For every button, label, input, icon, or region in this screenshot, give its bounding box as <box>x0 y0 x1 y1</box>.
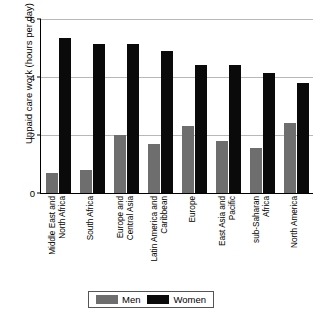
y-tick-label: 0 <box>11 188 41 199</box>
x-label-cell: Europe andCentral Asia <box>108 196 142 282</box>
x-axis-tick-label-line: Europe and <box>116 196 126 240</box>
bar-women <box>195 65 207 193</box>
legend-item-men: Men <box>96 294 140 305</box>
bar-women <box>93 44 105 193</box>
bar-men <box>148 144 160 193</box>
bar-men <box>46 173 58 193</box>
x-label-cell: Middle East andNorth Africa <box>40 196 74 282</box>
y-tick-label: 4 <box>11 72 41 83</box>
x-axis-tick-label-line: North Africa <box>57 196 67 255</box>
x-axis-labels: Middle East andNorth AfricaSouth AfricaE… <box>40 196 312 282</box>
x-label-cell: North America <box>278 196 312 282</box>
bar-men <box>250 148 262 193</box>
bar-women <box>263 73 275 193</box>
bar-group <box>109 19 143 193</box>
bar-women <box>161 51 173 193</box>
bar-group <box>245 19 279 193</box>
bar-group <box>143 19 177 193</box>
legend-swatch-men-icon <box>96 295 118 304</box>
x-axis-tick-label: East Asia andPacific <box>218 196 237 246</box>
y-tick-label: 2 <box>11 130 41 141</box>
bar-women <box>127 44 139 193</box>
plot-area: 0246 <box>40 19 313 194</box>
x-axis-tick-label: Latin America andCaribbean <box>150 196 169 262</box>
y-tick-label: 6 <box>11 14 41 25</box>
bars-layer <box>41 19 313 193</box>
x-label-cell: Latin America andCaribbean <box>142 196 176 282</box>
x-axis-tick-label: Middle East andNorth Africa <box>48 196 67 255</box>
chart-legend: Men Women <box>88 291 214 308</box>
x-axis-tick-label-line: South Africa <box>86 196 96 240</box>
x-axis-tick-label: Europe <box>188 196 198 222</box>
legend-label-men: Men <box>122 294 140 305</box>
bar-men <box>284 123 296 193</box>
bar-women <box>297 83 309 193</box>
x-axis-tick-label-line: Europe <box>188 196 198 222</box>
bar-women <box>229 65 241 193</box>
x-axis-tick-label-line: East Asia and <box>218 196 228 246</box>
bar-group <box>279 19 313 193</box>
bar-women <box>59 38 71 193</box>
bar-group <box>75 19 109 193</box>
x-axis-tick-label-line: sub-Saharan <box>252 196 262 243</box>
bar-men <box>80 170 92 193</box>
bar-group <box>177 19 211 193</box>
bar-men <box>114 135 126 193</box>
legend-swatch-women-icon <box>147 295 169 304</box>
bar-men <box>182 126 194 193</box>
x-label-cell: South Africa <box>74 196 108 282</box>
x-axis-tick-label-line: Caribbean <box>159 196 169 262</box>
x-label-cell: sub-SaharanAfrica <box>244 196 278 282</box>
bar-group <box>211 19 245 193</box>
x-axis-tick-label: South Africa <box>86 196 96 240</box>
unpaid-care-work-bar-chart: Unpaid care work (hours per day) 0246 Mi… <box>0 0 322 319</box>
bar-men <box>216 141 228 193</box>
bar-group <box>41 19 75 193</box>
x-label-cell: East Asia andPacific <box>210 196 244 282</box>
x-axis-tick-label: sub-SaharanAfrica <box>252 196 271 243</box>
x-axis-tick-label: North America <box>290 196 300 248</box>
legend-item-women: Women <box>147 294 206 305</box>
x-axis-tick-label-line: North America <box>290 196 300 248</box>
x-label-cell: Europe <box>176 196 210 282</box>
x-axis-tick-label-line: Latin America and <box>150 196 160 262</box>
x-axis-tick-label-line: Africa <box>261 196 271 243</box>
x-axis-tick-label-line: Pacific <box>227 196 237 246</box>
x-axis-tick-label-line: Central Asia <box>125 196 135 240</box>
x-axis-tick-label-line: Middle East and <box>48 196 58 255</box>
legend-label-women: Women <box>173 294 206 305</box>
x-axis-tick-label: Europe andCentral Asia <box>116 196 135 240</box>
